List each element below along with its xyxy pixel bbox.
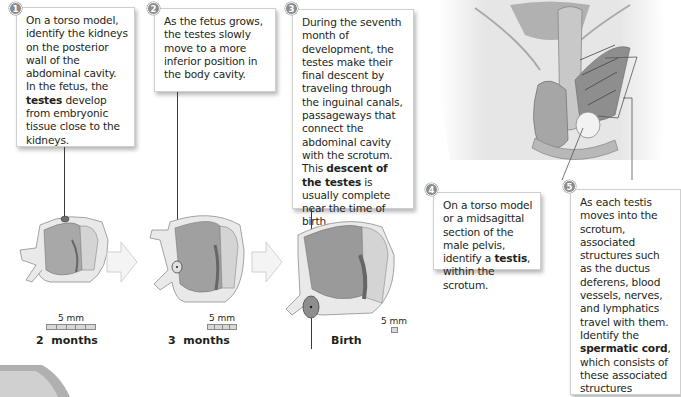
arrow-right-2	[250, 240, 284, 284]
term-spermatic-cord: spermatic cord	[580, 342, 667, 354]
fetus-2-months-illustration	[10, 210, 110, 290]
step-3-text-a: During the seventh month of development,…	[302, 16, 403, 174]
stage-label-3-months: 3 months	[168, 334, 230, 347]
step-5-callout: As each testis moves into the scrotum, a…	[570, 189, 681, 395]
step-4-callout: On a torso model or a midsagittal sectio…	[433, 192, 541, 270]
scale-label: 5 mm	[45, 313, 97, 323]
stage-label-2-months: 2 months	[36, 334, 98, 347]
scale-label: 5 mm	[380, 316, 408, 326]
step-3-badge: 3	[285, 2, 298, 15]
term-testes: testes	[26, 94, 62, 106]
step-5-text-a: As each testis moves into the scrotum, a…	[580, 196, 668, 341]
step-2-callout: As the fetus grows, the testes slowly mo…	[154, 8, 276, 92]
step-2-badge: 2	[147, 2, 160, 15]
step-4-badge: 4	[425, 183, 438, 196]
step-2-text: As the fetus grows, the testes slowly mo…	[164, 15, 263, 80]
scale-bar-3-months: 5 mm	[205, 313, 239, 330]
fetus-3-months-illustration	[140, 210, 250, 310]
step-1-badge: 1	[9, 2, 22, 15]
step-1-leader-line	[64, 147, 65, 219]
adult-male-pelvis-illustration	[420, 0, 681, 180]
scale-bar-birth: 5 mm	[380, 316, 408, 333]
term-testis: testis	[494, 252, 527, 264]
arrow-right-1	[105, 240, 139, 284]
scale-bar-2-months: 5 mm	[45, 313, 97, 330]
step-1-callout: On a torso model, identify the kidneys o…	[16, 7, 135, 147]
stage-label-birth: Birth	[331, 334, 362, 347]
step-5-badge: 5	[563, 180, 576, 193]
step-3-callout: During the seventh month of development,…	[292, 9, 414, 209]
scale-label: 5 mm	[205, 313, 239, 323]
fetus-birth-illustration	[282, 215, 400, 325]
step-1-text-a: On a torso model, identify the kidneys o…	[26, 14, 128, 92]
partial-illustration-fragment	[0, 365, 70, 397]
